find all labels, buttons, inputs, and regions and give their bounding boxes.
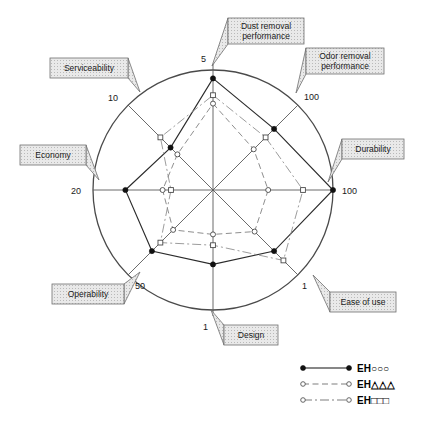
callout-label-line1: Odor removal [319, 51, 371, 61]
callout-label: Operability [68, 289, 109, 299]
data-point [169, 188, 174, 193]
legend-label: EH□□□ [357, 395, 389, 406]
data-point [149, 248, 154, 253]
data-point [171, 227, 176, 232]
data-point [281, 258, 286, 263]
callout-label-line1: Dust removal [241, 21, 291, 31]
legend-marker [301, 382, 306, 387]
legend-marker [347, 382, 352, 387]
radar-chart-figure: 510010011502010 Dust removalperformanceO… [0, 0, 436, 423]
data-point [211, 101, 216, 106]
data-point [251, 147, 256, 152]
legend-label: EH○○○ [357, 363, 389, 374]
data-point [158, 240, 163, 245]
radar-chart-canvas: 510010011502010 Dust removalperformanceO… [0, 0, 436, 423]
data-point [271, 248, 276, 253]
axis-tick-serviceability: 10 [108, 93, 118, 103]
axis-tick-ease-of-use: 1 [302, 281, 307, 291]
data-point [211, 232, 216, 237]
axis-tick-economy: 20 [71, 186, 81, 196]
data-point [210, 76, 215, 81]
callout-label-line2: performance [321, 61, 369, 71]
legend-marker [347, 366, 352, 371]
legend-marker [301, 366, 306, 371]
data-point [271, 126, 276, 131]
axis-tick-odor-removal-performance: 100 [304, 92, 319, 102]
callout-label: Durability [355, 144, 391, 154]
axis-tick-operability: 50 [135, 281, 145, 291]
data-point [252, 229, 257, 234]
legend-marker [347, 398, 352, 403]
legend-marker [301, 398, 306, 403]
callout-label: Design [238, 330, 265, 340]
data-point [263, 135, 268, 140]
data-point [211, 243, 216, 248]
data-point [330, 187, 335, 192]
callout-label: Ease of use [341, 297, 386, 307]
data-point [175, 152, 180, 157]
data-point [158, 135, 163, 140]
data-point [301, 188, 306, 193]
data-point [210, 262, 215, 267]
data-point [211, 93, 216, 98]
callout-label: Economy [35, 150, 71, 160]
callout-label-line2: performance [242, 31, 290, 41]
legend-label: EH△△△ [357, 379, 395, 390]
callout-label: Serviceability [64, 63, 115, 73]
data-point [123, 187, 128, 192]
axis-tick-dust-removal-performance: 5 [201, 54, 206, 64]
axis-tick-durability: 100 [342, 186, 357, 196]
data-point [168, 145, 173, 150]
data-point [266, 188, 271, 193]
data-point [160, 188, 165, 193]
axis-tick-design: 1 [203, 322, 208, 332]
